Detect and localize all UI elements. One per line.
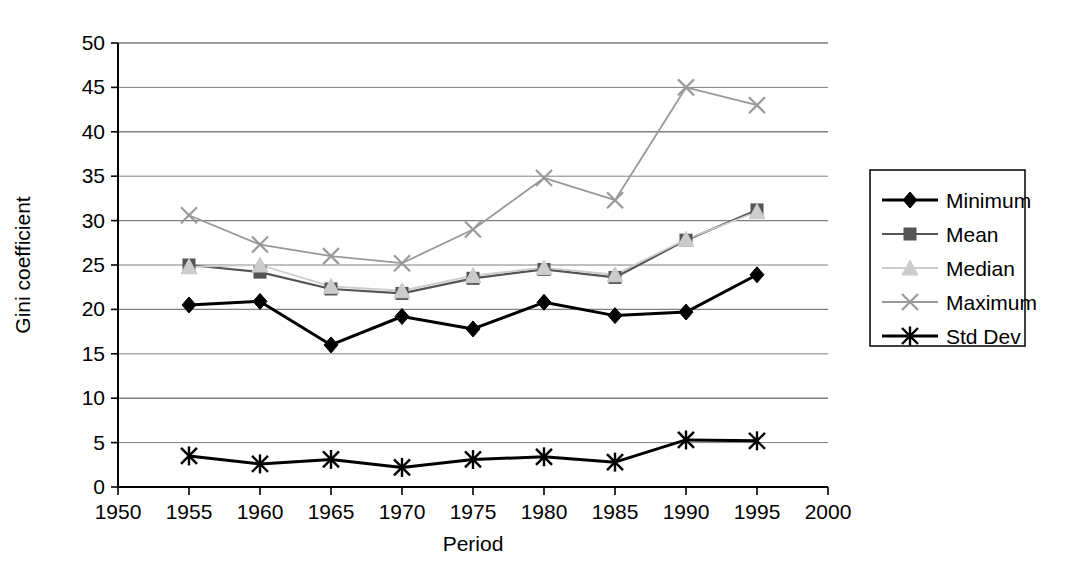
x-tick-label: 1950	[95, 500, 142, 523]
x-tick-label: 1965	[308, 500, 355, 523]
x-tick-label: 2000	[805, 500, 852, 523]
x-tick-label: 1980	[521, 500, 568, 523]
x-tick-label: 1970	[379, 500, 426, 523]
x-tick-label: 1955	[166, 500, 213, 523]
y-tick-label: 0	[93, 475, 105, 498]
x-tick-label: 1985	[592, 500, 639, 523]
x-tick-label: 1990	[663, 500, 710, 523]
legend-label: Minimum	[946, 189, 1031, 212]
x-tick-label: 1995	[734, 500, 781, 523]
gini-coefficient-line-chart: 05101520253035404550 1950195519601965197…	[0, 0, 1073, 585]
y-tick-label: 25	[82, 253, 105, 276]
legend-label: Mean	[946, 223, 999, 246]
x-axis-title: Period	[443, 532, 504, 555]
legend-item-std-dev[interactable]: Std Dev	[882, 325, 1021, 348]
y-tick-label: 35	[82, 164, 105, 187]
legend-label: Median	[946, 257, 1015, 280]
marker-square	[904, 228, 916, 240]
y-tick-label: 5	[93, 431, 105, 454]
legend-label: Std Dev	[946, 325, 1021, 348]
y-tick-label: 40	[82, 120, 105, 143]
chart-figure: 05101520253035404550 1950195519601965197…	[0, 0, 1073, 585]
legend-label: Maximum	[946, 291, 1037, 314]
y-tick-label: 15	[82, 342, 105, 365]
x-tick-labels-group: 1950195519601965197019751980198519901995…	[95, 500, 852, 523]
y-tick-label: 30	[82, 209, 105, 232]
x-tick-label: 1960	[237, 500, 284, 523]
y-tick-label: 45	[82, 75, 105, 98]
y-axis-title: Gini coefficient	[11, 196, 34, 334]
y-tick-label: 50	[82, 31, 105, 54]
y-tick-label: 20	[82, 297, 105, 320]
y-tick-label: 10	[82, 386, 105, 409]
x-tick-label: 1975	[450, 500, 497, 523]
